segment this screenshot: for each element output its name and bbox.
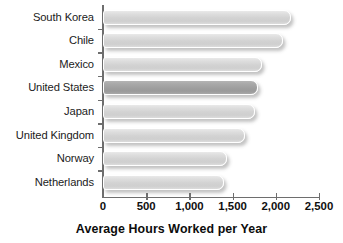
y-axis-label: Chile [69, 34, 94, 46]
x-axis-tick-label: 500 [137, 200, 156, 212]
y-axis-tick [98, 52, 103, 53]
x-axis-tick-label: 0 [100, 200, 106, 212]
y-axis-label: United States [28, 81, 94, 93]
bar-fill [103, 128, 245, 143]
bar-south-korea [103, 10, 291, 25]
x-axis-tick-label: 2,500 [305, 200, 334, 212]
bar-united-states [103, 80, 258, 95]
y-axis-tick [98, 76, 103, 77]
y-axis-label: Netherlands [35, 176, 94, 188]
x-axis-tick [276, 193, 277, 200]
bar-chile [103, 33, 283, 48]
bar-chart: South KoreaChileMexicoUnited StatesJapan… [0, 0, 343, 243]
y-axis-tick [98, 123, 103, 124]
bar-fill [103, 57, 262, 72]
x-axis-tick-label: 2,000 [262, 200, 291, 212]
bar-united-kingdom [103, 128, 245, 143]
x-axis-tick [146, 193, 147, 200]
bar-fill [103, 10, 291, 25]
x-axis-title: Average Hours Worked per Year [0, 222, 343, 236]
bar-fill [103, 33, 283, 48]
y-axis-tick [98, 100, 103, 101]
y-axis-label: Japan [64, 105, 94, 117]
bar-fill [103, 80, 258, 95]
y-axis-label: United Kingdom [16, 129, 94, 141]
x-axis-tick-label: 1,000 [175, 200, 204, 212]
bar-fill [103, 175, 224, 190]
plot-area: South KoreaChileMexicoUnited StatesJapan… [0, 0, 343, 243]
bar-japan [103, 104, 255, 119]
y-axis-label: Mexico [59, 58, 94, 70]
bar-netherlands [103, 175, 224, 190]
y-axis-tick [98, 147, 103, 148]
bar-norway [103, 151, 227, 166]
bar-mexico [103, 57, 262, 72]
y-axis-label: Norway [57, 152, 94, 164]
y-axis-label: South Korea [33, 11, 94, 23]
x-axis-line [102, 197, 320, 198]
x-axis-tick [319, 193, 320, 200]
bar-fill [103, 104, 255, 119]
bar-fill [103, 151, 227, 166]
y-axis-tick [98, 29, 103, 30]
y-axis-tick [98, 170, 103, 171]
x-axis-tick [189, 193, 190, 200]
x-axis-tick-label: 1,500 [218, 200, 247, 212]
x-axis-tick [233, 193, 234, 200]
